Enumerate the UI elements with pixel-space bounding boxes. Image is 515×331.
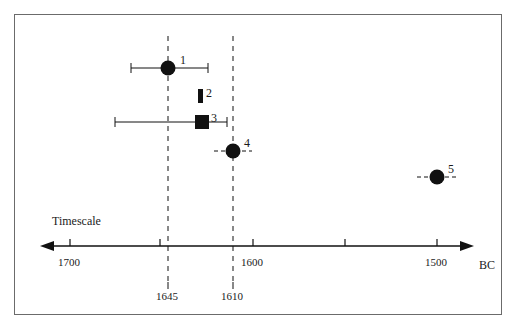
axis-tick-label-1700: 1700 — [58, 257, 80, 268]
data-point-2 — [198, 89, 203, 103]
data-point-label-2: 2 — [206, 87, 212, 99]
data-point-1 — [131, 61, 208, 76]
reference-label-1645: 1645 — [156, 291, 178, 302]
data-point-label-3: 3 — [211, 112, 217, 124]
axis-tick-label-1500: 1500 — [425, 257, 447, 268]
timescale-axis — [40, 239, 474, 251]
data-point-label-5: 5 — [448, 163, 454, 175]
axis-ticks — [70, 239, 437, 246]
axis-tick-label-1600: 1600 — [241, 257, 263, 268]
data-point-label-1: 1 — [180, 54, 186, 66]
reference-label-1610: 1610 — [221, 291, 243, 302]
axis-end-label: BC — [479, 259, 495, 271]
timescale-chart — [0, 0, 515, 331]
data-point-label-4: 4 — [244, 137, 250, 149]
axis-title: Timescale — [52, 215, 101, 227]
reference-tick-marks — [168, 282, 233, 289]
